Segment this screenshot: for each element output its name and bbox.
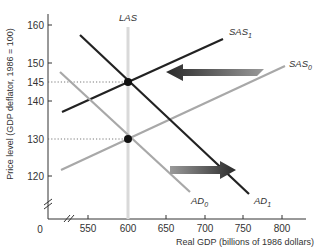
x-tick-label: 700 <box>197 223 214 234</box>
ad1-label: AD1 <box>253 195 271 208</box>
y-ticks <box>48 25 52 176</box>
x-tick-label: 650 <box>158 223 175 234</box>
sas0-curve <box>61 66 285 170</box>
new-equilibrium-point <box>124 78 132 86</box>
initial-equilibrium-point <box>124 135 132 143</box>
x-axis-title: Real GDP (billions of 1986 dollars) <box>176 237 314 247</box>
sas0-label: SAS0 <box>289 58 312 71</box>
x-tick-label: 750 <box>235 223 252 234</box>
y-tick-label: 140 <box>27 96 44 107</box>
origin-label: 0 <box>37 224 43 235</box>
x-tick-label: 600 <box>120 223 137 234</box>
y-tick-label: 160 <box>27 20 44 31</box>
x-ticks <box>88 215 282 219</box>
y-tick-label: 130 <box>27 134 44 145</box>
sas-shift-left-arrow-icon <box>166 64 264 81</box>
sas1-label: SAS1 <box>229 26 252 39</box>
y-tick-label: 120 <box>27 171 44 182</box>
y-tick-label: 150 <box>27 58 44 69</box>
y-tick-label: 145 <box>27 77 44 88</box>
aggregate-supply-demand-chart: 160 150 145 140 130 120 0 550 600 650 70… <box>0 0 320 249</box>
ad-shift-right-arrow-icon <box>170 161 236 179</box>
x-tick-label: 800 <box>274 223 291 234</box>
ad0-label: AD0 <box>190 195 208 208</box>
las-label: LAS <box>119 12 138 23</box>
y-axis-title: Price level (GDP deflator, 1986 = 100) <box>5 28 15 180</box>
x-tick-label: 550 <box>80 223 97 234</box>
